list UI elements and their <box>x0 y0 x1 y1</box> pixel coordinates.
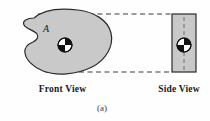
body-label-a: A <box>42 23 50 34</box>
center-of-gravity-marker-side <box>177 38 191 52</box>
front-view-label: Front View <box>10 84 115 94</box>
figure-container: A Front View Side View (a) <box>0 0 210 121</box>
center-of-gravity-marker-front <box>58 38 72 52</box>
side-view-label: Side View <box>150 84 208 94</box>
figure-caption: (a) <box>72 103 132 113</box>
